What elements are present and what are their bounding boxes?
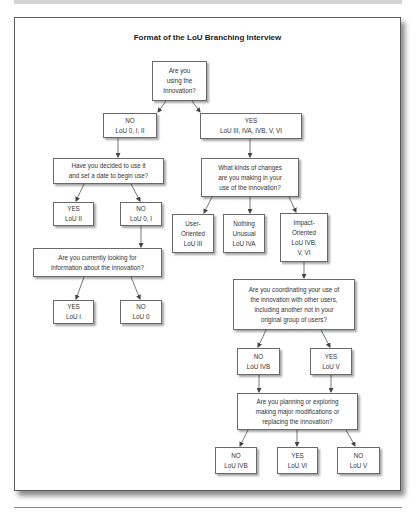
node-text: Oriented xyxy=(292,228,316,238)
answer-no-lou-ivb: NO LoU IVB xyxy=(237,348,280,375)
node-text: LoU IVB xyxy=(247,362,270,372)
node-text: User- xyxy=(185,219,200,229)
node-text: YES xyxy=(67,302,80,312)
question-coordinating-use: Are you coordinating your use of the inn… xyxy=(233,279,355,330)
node-text: original group of users? xyxy=(261,315,327,325)
node-text: use of the innovation? xyxy=(219,183,281,193)
node-text: NO xyxy=(254,352,263,362)
node-text: NO xyxy=(354,451,363,461)
answer-no-lou-ivb-final: NO LoU IVB xyxy=(215,447,257,474)
node-text: LoU 0 xyxy=(133,312,150,322)
node-text: NO xyxy=(231,451,240,461)
node-text: LoU III, IVA, IVB, V, VI xyxy=(220,126,282,136)
node-text: replacing the innovation? xyxy=(262,417,332,427)
node-text: LoU IVB, xyxy=(291,238,316,248)
node-text: including another not in your xyxy=(254,305,333,315)
answer-no-lou-0-i: NO LoU 0, I xyxy=(120,202,162,226)
node-text: LoU IVB xyxy=(224,461,247,471)
node-text: the innovation with other users, xyxy=(250,295,337,305)
node-text: LoU 0, I xyxy=(130,214,152,224)
node-text: Impact- xyxy=(294,218,315,228)
node-text: LoU I xyxy=(66,312,81,322)
node-text: LoU VI xyxy=(288,461,307,471)
diagram-title: Format of the LoU Branching Interview xyxy=(14,33,401,42)
question-decided-to-use: Have you decided to use it and set a dat… xyxy=(53,158,164,184)
answer-yes-lou-v: YES LoU V xyxy=(310,348,352,375)
node-text: YES xyxy=(245,116,258,126)
node-text: Are you currently looking for xyxy=(58,253,136,263)
answer-yes-lou-vi: YES LoU VI xyxy=(277,447,318,474)
node-text: V, VI xyxy=(297,248,310,258)
node-text: LoU 0, I, II xyxy=(115,126,144,136)
answer-yes-lou-i: YES LoU I xyxy=(53,300,94,324)
node-text: NO xyxy=(136,302,145,312)
node-text: YES xyxy=(291,451,304,461)
node-text: and set a date to begin use? xyxy=(69,171,148,181)
node-text: are you making in your xyxy=(218,173,282,183)
node-text: LoU V xyxy=(322,362,340,372)
node-text: using the xyxy=(167,76,193,86)
question-planning-modifications: Are you planning or exploring making maj… xyxy=(237,393,358,430)
node-text: Innovation? xyxy=(163,86,196,96)
bottom-rule xyxy=(14,507,402,508)
answer-yes-lou-ii: YES LoU II xyxy=(53,202,94,226)
question-currently-looking: Are you currently looking for informatio… xyxy=(33,248,162,277)
node-text: NO xyxy=(125,116,134,126)
node-text: Are you planning or exploring xyxy=(257,397,339,407)
answer-no-lou-v-final: NO LoU V xyxy=(337,447,380,474)
answer-no-lou-0-i-ii: NO LoU 0, I, II xyxy=(103,113,157,138)
node-text: LoU V xyxy=(350,461,368,471)
answer-impact-oriented-lou-ivb-v-vi: Impact- Oriented LoU IVB, V, VI xyxy=(280,213,328,262)
question-using-innovation: Are you using the Innovation? xyxy=(152,61,207,101)
question-kinds-of-changes: What kinds of changes are you making in … xyxy=(201,158,299,197)
answer-no-lou-0: NO LoU 0 xyxy=(120,300,162,324)
node-text: making major modifications or xyxy=(256,407,340,417)
node-text: YES xyxy=(325,352,338,362)
top-band xyxy=(14,0,402,4)
answer-nothing-unusual-lou-iva: Nothing Unusual LoU IVA xyxy=(223,214,265,253)
node-text: Unusual xyxy=(232,229,255,239)
node-text: LoU III xyxy=(184,239,203,249)
answer-yes-lou-iii-vi: YES LoU III, IVA, IVB, V, VI xyxy=(200,113,302,139)
node-text: LoU IVA xyxy=(233,239,256,249)
node-text: LoU II xyxy=(65,214,82,224)
node-text: Have you decided to use it xyxy=(71,161,145,171)
node-text: YES xyxy=(67,204,80,214)
node-text: NO xyxy=(136,204,145,214)
node-text: Nothing xyxy=(233,219,255,229)
node-text: information about the innovation? xyxy=(51,263,144,273)
node-text: Are you xyxy=(169,66,191,76)
node-text: What kinds of changes xyxy=(218,163,282,173)
node-text: Oriented xyxy=(181,229,205,239)
node-text: Are you coordinating your use of xyxy=(249,285,340,295)
answer-user-oriented-lou-iii: User- Oriented LoU III xyxy=(172,214,214,253)
